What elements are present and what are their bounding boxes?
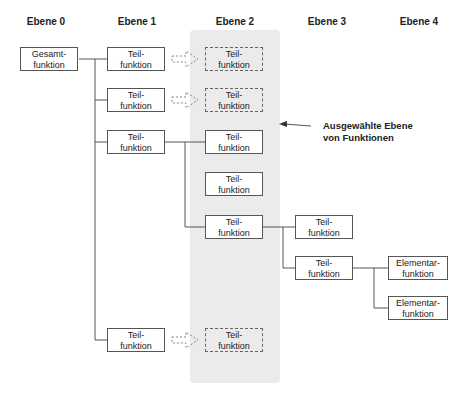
node-gesamtfunktion: Gesamt-funktion <box>20 47 78 71</box>
node-teilfunktion-l3-2: Teil-funktion <box>295 256 353 280</box>
node-elementarfunktion-1: Elementar-funktion <box>388 256 448 280</box>
node-teilfunktion-l1-1: Teil-funktion <box>107 47 165 71</box>
node-teilfunktion-l2-potential-2: Teil-funktion <box>205 88 263 112</box>
node-teilfunktion-l2-3: Teil-funktion <box>205 215 263 239</box>
annotation-selected-level: Ausgewählte Ebene von Funktionen <box>323 120 413 144</box>
annotation-line-2: von Funktionen <box>323 132 413 144</box>
node-teilfunktion-l2-2: Teil-funktion <box>205 172 263 196</box>
node-teilfunktion-l1-2: Teil-funktion <box>107 88 165 112</box>
node-teilfunktion-l2-potential-1: Teil-funktion <box>205 47 263 71</box>
node-teilfunktion-l3-1: Teil-funktion <box>295 215 353 239</box>
node-teilfunktion-l2-1: Teil-funktion <box>205 130 263 154</box>
annotation-line-1: Ausgewählte Ebene <box>323 120 413 132</box>
node-elementarfunktion-2: Elementar-funktion <box>388 296 448 320</box>
node-teilfunktion-l2-potential-3: Teil-funktion <box>205 328 263 352</box>
node-teilfunktion-l1-4: Teil-funktion <box>107 328 165 352</box>
node-teilfunktion-l1-3: Teil-funktion <box>107 130 165 154</box>
